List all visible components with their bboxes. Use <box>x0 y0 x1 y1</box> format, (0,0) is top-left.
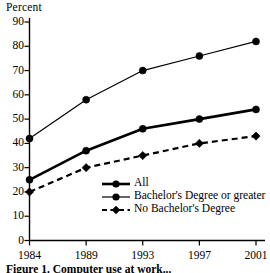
data-point-marker <box>139 67 146 74</box>
data-point-marker <box>252 132 260 140</box>
legend-label: Bachelor's Degree or greater <box>131 189 265 201</box>
y-tick-label: 80 <box>0 40 24 52</box>
data-point-marker <box>196 52 203 59</box>
data-point-marker <box>196 116 203 123</box>
x-axis-ticks <box>30 241 257 246</box>
legend: AllBachelor's Degree or greaterNo Bachel… <box>101 176 267 215</box>
figure-caption: Figure 1. Computer use at work... <box>6 263 171 273</box>
data-point-marker <box>26 176 33 183</box>
y-tick-label: 30 <box>0 162 24 174</box>
data-point-marker <box>26 135 33 142</box>
legend-swatch <box>101 189 131 201</box>
data-series-group <box>25 38 260 196</box>
y-tick-label: 20 <box>0 186 24 198</box>
data-point-marker <box>25 188 33 196</box>
x-tick-label: 1993 <box>123 250 163 262</box>
figure-chart: Percent 0102030405060708090 198419891993… <box>0 0 270 273</box>
legend-item: No Bachelor's Degree <box>101 202 267 214</box>
y-tick-label: 60 <box>0 89 24 101</box>
y-tick-label: 90 <box>0 16 24 28</box>
x-tick-label: 2001 <box>236 250 270 262</box>
data-point-marker <box>253 106 260 113</box>
y-tick-label: 50 <box>0 113 24 125</box>
y-tick-label: 10 <box>0 210 24 222</box>
data-point-marker <box>139 125 146 132</box>
data-point-marker <box>82 164 90 172</box>
data-point-marker <box>253 38 260 45</box>
data-point-marker <box>83 147 90 154</box>
legend-item: Bachelor's Degree or greater <box>101 189 267 201</box>
x-tick-label: 1989 <box>66 250 106 262</box>
x-tick-label: 1997 <box>179 250 219 262</box>
x-tick-label: 1984 <box>10 250 50 262</box>
legend-item: All <box>101 176 267 188</box>
legend-label: No Bachelor's Degree <box>131 202 235 214</box>
legend-label: All <box>131 176 149 188</box>
data-point-marker <box>139 151 147 159</box>
y-tick-label: 0 <box>0 235 24 247</box>
series-line <box>30 109 257 179</box>
y-tick-label: 40 <box>0 137 24 149</box>
y-tick-label: 70 <box>0 65 24 77</box>
data-point-marker <box>83 96 90 103</box>
y-axis-ticks <box>25 22 30 241</box>
data-point-marker <box>195 139 203 147</box>
series-line <box>30 41 257 138</box>
legend-swatch <box>101 202 131 214</box>
plot-area <box>0 0 270 273</box>
legend-swatch <box>101 176 131 188</box>
